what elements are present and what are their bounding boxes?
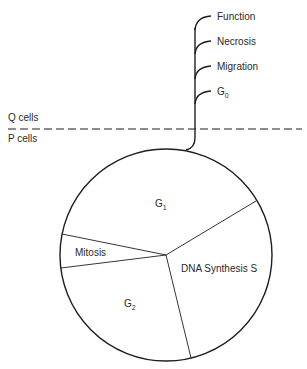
branch-necrosis — [195, 41, 211, 54]
p-cells-label: P cells — [8, 133, 37, 144]
phase-mitosis-label: Mitosis — [75, 247, 106, 258]
cell-cycle-diagram: Q cells P cells Function Necrosis Migrat… — [0, 0, 307, 369]
phase-s-label: DNA Synthesis S — [181, 263, 257, 274]
phase-g1-subscript: 1 — [163, 204, 167, 211]
exit-stem — [186, 28, 195, 150]
fate-function-label: Function — [217, 11, 255, 22]
q-cells-label: Q cells — [8, 112, 39, 123]
phase-g2-subscript: 2 — [132, 304, 136, 311]
phase-g1-label: G1 — [155, 198, 167, 211]
fate-g0-label: G0 — [217, 86, 229, 99]
branch-g0 — [195, 91, 211, 104]
branch-function — [195, 16, 211, 30]
arrow-bottom-left-icon — [96, 336, 106, 343]
arrow-top-left-icon — [104, 162, 114, 168]
branch-migration — [195, 66, 211, 79]
phase-g2-label: G2 — [124, 298, 136, 311]
fate-migration-label: Migration — [217, 61, 258, 72]
divider-g1-s — [166, 201, 256, 255]
fate-necrosis-label: Necrosis — [217, 36, 256, 47]
fate-g0-subscript: 0 — [225, 92, 229, 99]
